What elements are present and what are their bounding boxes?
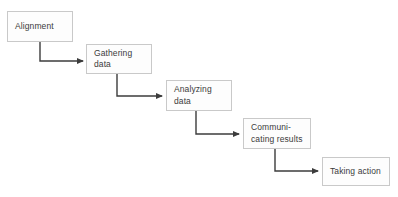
connector-analyzing-data-to-communicating-results — [196, 111, 239, 134]
connector-gathering-data-to-analyzing-data — [117, 74, 162, 96]
stage-box-communicating-results: Communi- cating results — [243, 118, 311, 149]
stage-box-gathering-data: Gathering data — [86, 44, 152, 74]
stage-label-analyzing-data: Analyzing data — [174, 84, 212, 107]
connector-alignment-to-gathering-data — [40, 42, 83, 61]
stage-label-communicating-results: Communi- cating results — [251, 122, 302, 145]
stage-box-alignment: Alignment — [7, 11, 73, 42]
process-flow-diagram: Alignment Gathering data Analyzing data … — [0, 0, 398, 197]
stage-label-taking-action: Taking action — [330, 166, 381, 178]
connector-communicating-results-to-taking-action — [275, 149, 318, 171]
stage-label-gathering-data: Gathering data — [94, 48, 132, 71]
stage-label-alignment: Alignment — [15, 21, 54, 33]
stage-box-analyzing-data: Analyzing data — [166, 80, 232, 111]
stage-box-taking-action: Taking action — [322, 157, 390, 186]
